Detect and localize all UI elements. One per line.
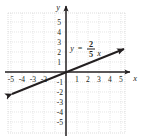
y-tick-3: 3 <box>57 38 61 47</box>
y-tick--3: -3 <box>57 98 64 107</box>
equation-equals: = <box>77 44 83 53</box>
x-tick--5: -5 <box>8 75 15 84</box>
y-tick--1: -1 <box>57 78 64 87</box>
x-tick-2: 2 <box>86 75 90 84</box>
y-tick-5: 5 <box>57 18 61 27</box>
x-axis-label: x <box>132 74 137 83</box>
equation-variable: x <box>96 49 101 58</box>
y-axis-label: y <box>55 3 60 12</box>
x-tick-4: 4 <box>108 75 112 84</box>
x-tick--2: -2 <box>41 75 48 84</box>
y-tick-1: 1 <box>57 58 61 67</box>
y-tick-4: 4 <box>57 28 61 37</box>
x-tick--3: -3 <box>30 75 37 84</box>
equation-lhs: y <box>69 44 74 53</box>
y-tick-2: 2 <box>57 48 61 57</box>
x-tick-1: 1 <box>75 75 79 84</box>
coordinate-graph-svg: y x -5 -4 -3 -2 1 2 3 4 5 5 4 3 2 1 -1 -… <box>0 0 142 139</box>
x-tick-5: 5 <box>119 75 123 84</box>
y-tick--4: -4 <box>57 108 64 117</box>
equation-denominator: 5 <box>89 50 93 59</box>
y-tick--2: -2 <box>57 88 64 97</box>
x-tick--4: -4 <box>19 75 26 84</box>
y-tick--5: -5 <box>57 118 64 127</box>
equation-numerator: 2 <box>89 40 93 49</box>
graph-figure: y x -5 -4 -3 -2 1 2 3 4 5 5 4 3 2 1 -1 -… <box>0 0 142 139</box>
x-tick-3: 3 <box>97 75 101 84</box>
